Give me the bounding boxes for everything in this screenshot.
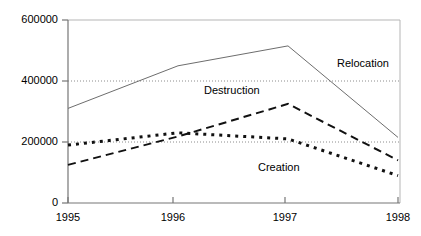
series-annotation-creation: Creation — [258, 162, 300, 173]
x-tick-label-1996: 1996 — [143, 212, 203, 223]
y-tick-label-200000: 200000 — [0, 136, 58, 147]
line-chart: 600000 400000 200000 0 1995 1996 1997 19… — [0, 0, 421, 236]
plot-area — [0, 0, 421, 236]
x-tick-label-1997: 1997 — [255, 212, 315, 223]
y-tick-label-600000: 600000 — [0, 14, 58, 25]
plot-frame — [68, 20, 400, 203]
series-annotation-destruction: Destruction — [204, 85, 260, 96]
x-tick-label-1998: 1998 — [368, 212, 421, 223]
y-tick-label-0: 0 — [0, 197, 58, 208]
series-line-creation — [68, 133, 398, 176]
axes — [62, 20, 400, 203]
x-tick-label-1995: 1995 — [38, 212, 98, 223]
y-tick-label-400000: 400000 — [0, 75, 58, 86]
series-line-destruction — [68, 104, 398, 165]
series-annotation-relocation: Relocation — [337, 58, 389, 69]
